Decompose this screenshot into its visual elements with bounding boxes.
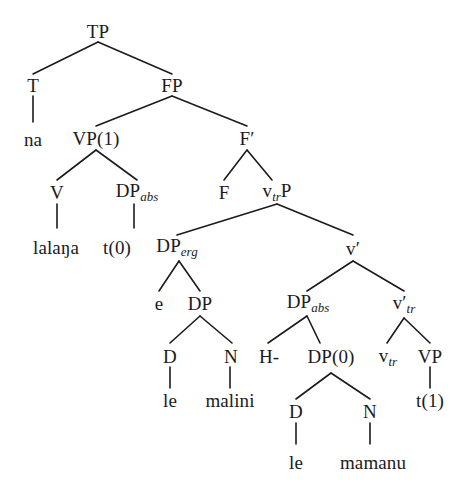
node-trace-0: t(0) xyxy=(103,238,131,257)
branch-fp-vp1 xyxy=(96,96,172,126)
node-dp: DP xyxy=(188,294,213,313)
branch-vbartr-vp xyxy=(404,318,430,343)
branch-dperg-dp xyxy=(179,261,200,291)
node-lalanga: lalaŋa xyxy=(33,238,79,257)
node-vtr-p-base: v xyxy=(263,180,273,201)
node-dp-erg-subscript: erg xyxy=(181,244,198,259)
node-le-2: le xyxy=(289,453,303,472)
node-vp1: VP(1) xyxy=(73,129,120,148)
branch-dp0-d2 xyxy=(296,373,331,399)
node-f-bar: F′ xyxy=(240,129,255,148)
node-v-bar-tr-subscript: tr xyxy=(407,301,416,316)
node-fp: FP xyxy=(161,76,182,95)
node-dp-abs-2-subscript: abs xyxy=(311,300,329,315)
node-v-bar: v′ xyxy=(346,239,360,258)
branch-vbar-vbartr xyxy=(353,261,404,291)
node-n-2: N xyxy=(363,402,377,421)
node-le-1: le xyxy=(163,391,177,410)
branch-dp0-n2 xyxy=(331,373,370,399)
node-h: H- xyxy=(259,347,279,366)
node-vtr-subscript: tr xyxy=(388,354,397,369)
branch-fbar-vtrp xyxy=(247,150,272,180)
branch-vbar-dpabs2 xyxy=(307,261,353,291)
branch-dp-d1 xyxy=(170,316,200,343)
branch-fbar-f xyxy=(224,150,247,180)
node-dp-abs-2-base: DP xyxy=(287,291,312,312)
node-malini: malini xyxy=(205,391,254,410)
node-v-bar-tr-base: v xyxy=(393,292,403,313)
branch-vtrp-dperg xyxy=(177,204,277,235)
node-f: F xyxy=(219,183,230,202)
node-v: V xyxy=(50,183,64,202)
node-v-bar-tr: v′tr xyxy=(393,293,416,316)
branch-fp-fbar xyxy=(172,96,247,126)
node-vp: VP xyxy=(418,347,443,366)
node-n-1: N xyxy=(224,347,238,366)
branch-tp-t xyxy=(33,42,98,74)
node-na: na xyxy=(24,130,42,149)
node-mamanu: mamanu xyxy=(340,453,406,472)
branch-vp1-dpabs xyxy=(96,150,137,180)
branch-dpabs2-h xyxy=(268,316,307,343)
node-vtr-p-tail: P xyxy=(281,180,292,201)
node-dp-abs-1-base: DP xyxy=(116,180,141,201)
branch-tp-fp xyxy=(98,42,172,74)
branch-dperg-e xyxy=(159,261,179,291)
node-d-1: D xyxy=(163,347,177,366)
branch-vtrp-vbar xyxy=(277,204,353,235)
node-e: e xyxy=(155,294,164,313)
node-tp: TP xyxy=(87,22,109,41)
node-t: T xyxy=(27,76,39,95)
node-dp-abs-1-subscript: abs xyxy=(140,189,158,204)
node-f-bar-prime: ′ xyxy=(250,128,254,149)
node-dp-0: DP(0) xyxy=(308,347,355,366)
node-f-bar-base: F xyxy=(240,128,251,149)
branch-vp1-v xyxy=(57,150,96,180)
node-v-bar-prime: ′ xyxy=(356,238,360,259)
node-dp-abs-2: DPabs xyxy=(287,292,330,315)
node-vtr-p-subscript: tr xyxy=(272,189,281,204)
node-vtr-p: vtrP xyxy=(263,181,292,204)
syntactic-tree-figure: TP T FP na VP(1) F′ V DPabs F vtrP lalaŋ… xyxy=(0,0,473,490)
node-dp-erg-base: DP xyxy=(156,235,181,256)
node-dp-abs-1: DPabs xyxy=(116,181,159,204)
node-v-bar-base: v xyxy=(346,238,356,259)
node-trace-1: t(1) xyxy=(416,391,444,410)
branch-dp-n1 xyxy=(200,316,232,343)
branch-vbartr-vtr xyxy=(387,318,404,343)
node-d-2: D xyxy=(289,402,303,421)
node-vtr: vtr xyxy=(379,346,397,369)
node-dp-erg: DPerg xyxy=(156,236,197,259)
node-vtr-base: v xyxy=(379,345,389,366)
branch-dpabs2-dp0 xyxy=(307,316,320,343)
